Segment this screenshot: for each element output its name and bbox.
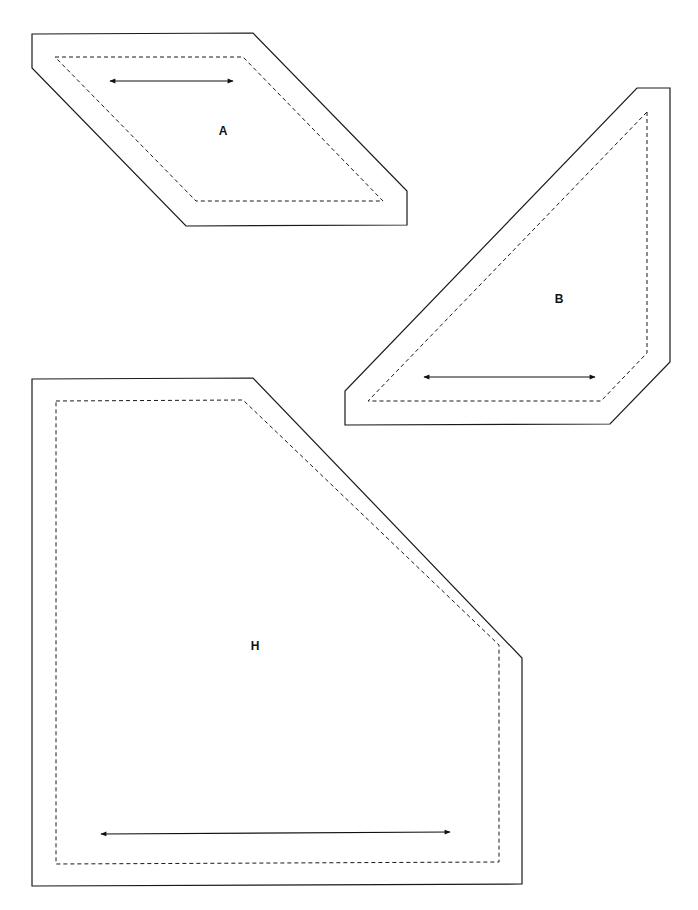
piece-a-label: A bbox=[219, 124, 228, 138]
piece-b: B bbox=[345, 88, 670, 425]
template-sheet: A B H bbox=[0, 0, 698, 910]
piece-b-label: B bbox=[555, 292, 564, 306]
piece-a: A bbox=[32, 33, 407, 226]
piece-h-label: H bbox=[251, 639, 260, 653]
piece-h-cut-line bbox=[32, 378, 522, 886]
piece-h: H bbox=[32, 378, 522, 886]
